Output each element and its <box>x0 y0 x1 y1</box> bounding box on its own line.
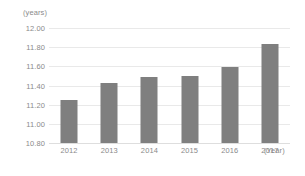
x-axis-tick-label: 2012 <box>61 146 78 155</box>
plot-area <box>49 28 290 143</box>
bar-slot <box>129 28 169 143</box>
y-axis-tick-labels: 12.0011.8011.6011.4011.2011.0010.80 <box>0 28 45 143</box>
x-axis-tick-label: 2014 <box>141 146 158 155</box>
y-axis-tick-label: 11.20 <box>3 100 45 109</box>
bar[interactable] <box>141 77 158 143</box>
x-axis-tick-labels: 201220132014201520162017 <box>49 146 290 160</box>
y-axis-tick-label: 12.00 <box>3 24 45 33</box>
bar[interactable] <box>61 100 78 143</box>
x-axis-tick-label: 2015 <box>181 146 198 155</box>
x-axis-tick-label: 2016 <box>221 146 238 155</box>
y-axis-unit-label: (years) <box>23 8 47 17</box>
y-axis-tick-label: 11.00 <box>3 119 45 128</box>
x-axis-tick-label: 2013 <box>101 146 118 155</box>
y-axis-tick-label: 11.80 <box>3 43 45 52</box>
y-axis-tick-label: 10.80 <box>3 139 45 148</box>
bar[interactable] <box>261 44 278 143</box>
y-axis-tick-label: 11.60 <box>3 62 45 71</box>
bar[interactable] <box>101 83 118 143</box>
bar-slot <box>250 28 290 143</box>
bar[interactable] <box>221 67 238 143</box>
bar-chart: (years) 12.0011.8011.6011.4011.2011.0010… <box>0 0 305 176</box>
bar-series <box>49 28 290 143</box>
bar-slot <box>210 28 250 143</box>
x-axis-unit-label: (Year) <box>264 146 285 155</box>
gridline <box>49 143 290 144</box>
bar-slot <box>89 28 129 143</box>
y-axis-tick-label: 11.40 <box>3 81 45 90</box>
bar-slot <box>49 28 89 143</box>
bar[interactable] <box>181 76 198 143</box>
bar-slot <box>170 28 210 143</box>
